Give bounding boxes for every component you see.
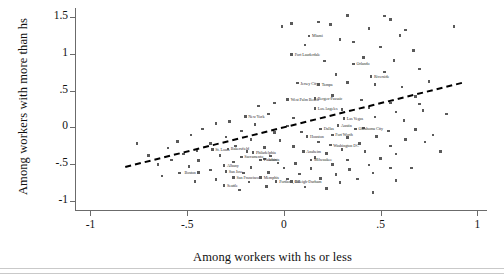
x-axis-tick-label: 1 — [457, 218, 497, 230]
x-axis-tick-label: 0 — [264, 218, 304, 230]
data-point-labeled — [354, 128, 357, 131]
data-point-labeled — [223, 184, 226, 187]
x-axis-tick — [477, 211, 478, 216]
data-point — [161, 175, 164, 178]
data-point — [331, 163, 334, 166]
data-point — [325, 187, 328, 190]
data-point-labeled — [296, 82, 299, 85]
data-point — [375, 135, 378, 138]
data-point-labeled — [232, 176, 235, 179]
data-point — [170, 159, 173, 162]
data-point — [178, 172, 181, 175]
data-point-label: Bakersfield — [231, 146, 249, 151]
data-point-labeled — [370, 75, 373, 78]
data-point-labeled — [290, 53, 293, 56]
data-point — [418, 68, 421, 71]
data-point — [325, 152, 328, 155]
data-point — [389, 102, 392, 105]
data-point — [403, 119, 406, 122]
data-point-labeled — [310, 159, 313, 162]
data-point-labeled — [197, 171, 200, 174]
data-point — [201, 128, 204, 131]
data-point — [209, 169, 212, 172]
data-point — [277, 162, 280, 165]
data-point-label: Oklahoma City — [358, 126, 382, 131]
data-point-labeled — [308, 35, 311, 38]
data-point — [368, 27, 371, 30]
data-point-label: Raleigh-Durham — [295, 179, 322, 184]
data-point — [283, 167, 286, 170]
data-point-label: Las Vegas — [347, 116, 363, 121]
data-point — [412, 49, 415, 52]
data-point — [439, 150, 442, 153]
data-point — [410, 167, 413, 170]
data-point — [317, 141, 320, 144]
data-point-label: Jersey City — [300, 81, 318, 86]
data-point — [267, 113, 270, 116]
data-point-labeled — [314, 107, 317, 110]
data-point — [372, 191, 375, 194]
data-point — [197, 159, 200, 162]
data-point — [294, 162, 297, 165]
x-axis-tick-label: -1 — [70, 218, 110, 230]
data-point-label: Albany — [227, 163, 239, 168]
data-point — [323, 60, 326, 63]
data-point-labeled — [319, 128, 322, 131]
data-point — [238, 189, 241, 192]
data-point — [418, 103, 421, 106]
data-point-labeled — [290, 180, 293, 183]
data-point — [395, 153, 398, 156]
data-point-labeled — [302, 150, 305, 153]
data-point — [453, 25, 456, 28]
data-point — [404, 138, 407, 141]
data-point-label: Riverside — [374, 74, 389, 79]
data-point — [281, 25, 284, 28]
page-rule-bottom — [0, 273, 504, 274]
plot-area: MiamiFort LauderdaleOrlandoRiversideJers… — [75, 8, 487, 210]
x-axis-tick-label: -.5 — [167, 218, 207, 230]
data-point — [263, 146, 266, 149]
x-axis-tick — [187, 211, 188, 216]
data-point — [250, 166, 253, 169]
data-point-labeled — [286, 98, 289, 101]
data-point — [188, 165, 191, 168]
data-point — [304, 44, 307, 47]
data-point — [422, 109, 425, 112]
data-point-label: Boston — [184, 170, 195, 175]
data-point — [273, 131, 276, 134]
data-point-label: Dallas — [324, 126, 334, 131]
y-axis-tick — [70, 17, 75, 18]
data-point-label: Fort Lauderdale — [295, 52, 321, 57]
data-point — [428, 80, 431, 83]
data-point — [374, 116, 377, 119]
data-point — [292, 145, 295, 148]
data-point — [432, 134, 435, 137]
data-point — [339, 38, 342, 41]
data-point-labeled — [259, 159, 262, 162]
data-point — [387, 130, 390, 133]
scatter-plot-figure: Among workers with more than hs Among wo… — [0, 0, 504, 276]
data-point-label: Miami — [312, 33, 323, 38]
data-point — [248, 181, 251, 184]
data-point-label: Bergen-Passaic — [318, 96, 342, 101]
data-point-label: Phoenix — [264, 157, 277, 162]
data-point — [215, 178, 218, 181]
data-point — [335, 73, 338, 76]
data-point — [267, 171, 270, 174]
data-point-labeled — [227, 148, 230, 151]
data-point-labeled — [337, 124, 340, 127]
data-point — [157, 163, 160, 166]
data-point — [401, 86, 404, 89]
trend-line — [125, 82, 462, 168]
data-point — [389, 18, 392, 21]
data-point-labeled — [329, 144, 332, 147]
data-point-label: New York — [248, 114, 264, 119]
data-point — [389, 145, 392, 148]
data-point-label: Houston — [310, 134, 324, 139]
data-point-labeled — [240, 156, 243, 159]
data-point — [228, 120, 231, 123]
y-axis-tick — [70, 164, 75, 165]
data-point-labeled — [317, 83, 320, 86]
data-point-labeled — [259, 176, 262, 179]
data-point-label: Milwaukee — [314, 157, 332, 162]
